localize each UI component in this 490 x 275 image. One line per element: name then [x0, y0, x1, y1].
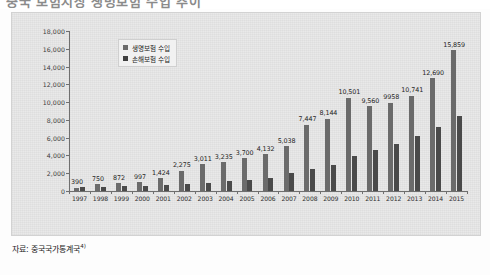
- bar-life-insurance-2012: [388, 103, 393, 192]
- bar-value-label: 7,447: [299, 115, 317, 123]
- x-axis-tick-label: 2002: [177, 195, 192, 202]
- legend-label: 생명보험 수입: [132, 43, 170, 53]
- x-axis-tick-label: 2012: [386, 195, 401, 202]
- bar-non-life-insurance-2010: [352, 156, 357, 191]
- x-axis-tick-label: 2003: [198, 195, 213, 202]
- bar-life-insurance-2005: [242, 158, 247, 191]
- x-axis-tick-label: 2000: [135, 195, 150, 202]
- x-axis-tick-mark: [174, 191, 175, 194]
- chart-panel: 02,0004,0006,0008,00010,00012,00014,0001…: [11, 12, 481, 236]
- bar-life-insurance-2000: [137, 182, 142, 191]
- bar-non-life-insurance-2005: [247, 180, 252, 191]
- bar-non-life-insurance-2002: [185, 184, 190, 191]
- x-axis-tick-mark: [425, 191, 426, 194]
- bar-life-insurance-1997: [74, 188, 79, 191]
- x-axis-tick-label: 2006: [260, 195, 275, 202]
- legend-swatch-icon: [123, 45, 128, 50]
- x-axis-tick-label: 2008: [302, 195, 317, 202]
- x-axis-tick-label: 1999: [114, 195, 129, 202]
- bar-life-insurance-2003: [200, 164, 205, 191]
- page-title-text: 중국 보험시장 생명보험 수입 추이: [6, 0, 201, 9]
- x-axis-tick-mark: [69, 191, 70, 194]
- x-axis-tick-mark: [383, 191, 384, 194]
- bar-life-insurance-2004: [221, 162, 226, 191]
- x-axis-tick-label: 2015: [449, 195, 464, 202]
- bar-value-label: 750: [92, 175, 104, 183]
- legend-swatch-icon: [123, 56, 128, 61]
- x-axis-tick-mark: [111, 191, 112, 194]
- bar-non-life-insurance-2015: [457, 116, 462, 191]
- bar-life-insurance-1998: [95, 184, 100, 191]
- bar-value-label: 15,859: [443, 41, 465, 49]
- x-axis-tick-mark: [320, 191, 321, 194]
- bar-life-insurance-2014: [430, 78, 435, 191]
- bar-non-life-insurance-2014: [436, 127, 441, 191]
- x-axis-line: 1997199819992000200120022003200420052006…: [69, 191, 468, 192]
- source-note-reference: 4): [80, 243, 86, 249]
- bar-value-label: 10,741: [401, 86, 423, 94]
- x-axis-tick-label: 2009: [323, 195, 338, 202]
- bar-value-label: 5,038: [278, 137, 296, 145]
- bar-non-life-insurance-1997: [80, 187, 85, 191]
- x-axis-tick-mark: [258, 191, 259, 194]
- x-axis-tick-mark: [195, 191, 196, 194]
- x-axis-tick-label: 2011: [365, 195, 380, 202]
- x-axis-tick-mark: [362, 191, 363, 194]
- x-axis-tick-label: 2014: [428, 195, 443, 202]
- bar-life-insurance-2002: [179, 171, 184, 191]
- x-axis-tick-mark: [153, 191, 154, 194]
- bar-non-life-insurance-2008: [310, 169, 315, 191]
- bar-life-insurance-2007: [284, 146, 289, 191]
- bar-non-life-insurance-2013: [415, 136, 420, 191]
- x-axis-tick-label: 2004: [219, 195, 234, 202]
- x-axis-tick-label: 2013: [407, 195, 422, 202]
- bar-non-life-insurance-2007: [289, 173, 294, 191]
- bar-value-label: 872: [113, 174, 125, 182]
- bar-life-insurance-2001: [158, 178, 163, 191]
- x-axis-tick-mark: [132, 191, 133, 194]
- bar-value-label: 2,275: [173, 161, 191, 169]
- x-axis-tick-label: 2010: [344, 195, 359, 202]
- bar-non-life-insurance-2001: [164, 185, 169, 191]
- x-axis-tick-mark: [90, 191, 91, 194]
- bar-non-life-insurance-2012: [394, 144, 399, 191]
- x-axis-tick-mark: [299, 191, 300, 194]
- bar-value-label: 9,560: [361, 97, 379, 105]
- bar-value-label: 1,424: [152, 169, 170, 177]
- bar-non-life-insurance-2009: [331, 165, 336, 191]
- bar-value-label: 390: [71, 178, 83, 186]
- bar-value-label: 3,700: [236, 149, 254, 157]
- x-axis-tick-label: 2005: [239, 195, 254, 202]
- bar-non-life-insurance-2004: [227, 181, 232, 191]
- legend-entry-series2: 손해보험 수입: [123, 54, 170, 63]
- bar-value-label: 997: [134, 173, 146, 181]
- bar-life-insurance-2010: [346, 98, 351, 191]
- x-axis-tick-label: 1997: [72, 195, 87, 202]
- bar-value-label: 3,011: [194, 155, 212, 163]
- figure-container: 중국 보험시장 생명보험 수입 추이 02,0004,0006,0008,000…: [0, 0, 490, 275]
- bar-non-life-insurance-1999: [122, 186, 127, 191]
- bar-life-insurance-2015: [451, 50, 456, 191]
- source-note-text: 자료: 중국국가통계국: [12, 245, 80, 254]
- x-axis-tick-label: 2001: [156, 195, 171, 202]
- x-axis-tick-mark: [446, 191, 447, 194]
- bar-value-label: 8,144: [320, 109, 338, 117]
- x-axis-tick-mark: [341, 191, 342, 194]
- bar-value-label: 4,132: [257, 145, 275, 153]
- x-axis-tick-mark: [404, 191, 405, 194]
- bar-life-insurance-1999: [116, 183, 121, 191]
- legend-label: 손해보험 수입: [132, 54, 170, 64]
- bar-life-insurance-2011: [367, 106, 372, 191]
- x-axis-tick-label: 2007: [281, 195, 296, 202]
- bar-value-label: 10,501: [338, 88, 360, 96]
- bar-non-life-insurance-2006: [268, 178, 273, 191]
- x-axis-tick-mark: [237, 191, 238, 194]
- bar-value-label: 3,235: [215, 153, 233, 161]
- bar-life-insurance-2008: [304, 125, 309, 191]
- bar-non-life-insurance-1998: [101, 187, 106, 191]
- bar-non-life-insurance-2003: [206, 183, 211, 191]
- x-axis-tick-mark: [278, 191, 279, 194]
- bar-value-label: 9958: [383, 93, 399, 101]
- chart-legend: 생명보험 수입 손해보험 수입: [118, 39, 177, 67]
- bar-non-life-insurance-2000: [143, 186, 148, 191]
